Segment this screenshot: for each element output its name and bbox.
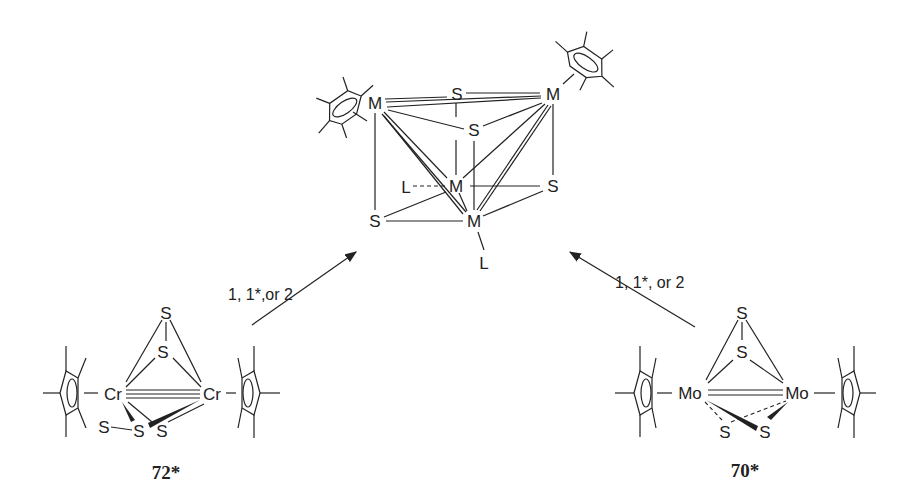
atom-s-top: S xyxy=(451,85,462,104)
ligand-l-bottom: L xyxy=(479,254,488,273)
reaction-arrow-right: 1, 1*, or 2 xyxy=(570,252,695,327)
cp-star-right-icon xyxy=(226,346,280,438)
atom-s: S xyxy=(160,304,171,323)
atom-m-center: M xyxy=(449,177,463,196)
atom-m-bottom: M xyxy=(467,212,481,231)
cp-star-left-icon xyxy=(615,346,672,437)
compound-label-72: 72* xyxy=(152,462,181,483)
reaction-scheme-drawing: M M S S M S S M L L 1, 1*,or 2 1, 1*, or… xyxy=(0,0,915,495)
arrow-right-label: 1, 1*, or 2 xyxy=(615,274,684,291)
reactant-72-star: S S Cr Cr S S S 72* xyxy=(43,304,280,484)
atom-s: S xyxy=(759,423,770,442)
atom-s: S xyxy=(98,418,109,437)
atom-mo-right: Mo xyxy=(785,384,809,403)
compound-label-70: 70* xyxy=(731,460,760,481)
cp-star-left-icon xyxy=(43,346,98,437)
atom-s: S xyxy=(719,423,730,442)
reaction-scheme: M M S S M S S M L L 1, 1*,or 2 1, 1*, or… xyxy=(0,0,915,495)
atom-s: S xyxy=(157,343,168,362)
atom-s: S xyxy=(736,304,747,323)
product-cluster: M M S S M S S M L L xyxy=(300,20,631,272)
atom-s: S xyxy=(736,343,747,362)
reactant-70-star: S S Mo Mo S S 70* xyxy=(615,304,876,482)
ligand-l-left: L xyxy=(401,178,410,197)
atom-s-right: S xyxy=(547,177,558,196)
atom-s: S xyxy=(133,422,144,441)
atom-m-top-left: M xyxy=(368,94,382,113)
atom-mo-left: Mo xyxy=(678,384,702,403)
reaction-arrow-left: 1, 1*,or 2 xyxy=(228,252,356,325)
arrow-left-label: 1, 1*,or 2 xyxy=(228,286,293,303)
atom-cr-left: Cr xyxy=(104,385,122,404)
cp-star-right-icon xyxy=(814,346,876,438)
atom-s-bottom-left: S xyxy=(369,212,380,231)
atom-s-mid: S xyxy=(468,121,479,140)
atom-s: S xyxy=(156,422,167,441)
atom-cr-right: Cr xyxy=(203,385,221,404)
atom-m-top-right: M xyxy=(546,85,560,104)
